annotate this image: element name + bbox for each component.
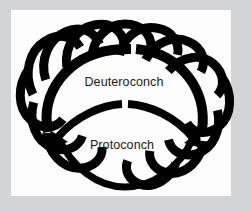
protoconch-chamber-upper-right [128,104,193,138]
shell-diagram [0,0,251,212]
label-protoconch: Protoconch [0,139,244,152]
label-deuteroconch: Deuteroconch [0,76,248,89]
figure-root: Deuteroconch Protoconch [0,0,251,212]
protoconch-chamber-upper-left [58,104,122,137]
